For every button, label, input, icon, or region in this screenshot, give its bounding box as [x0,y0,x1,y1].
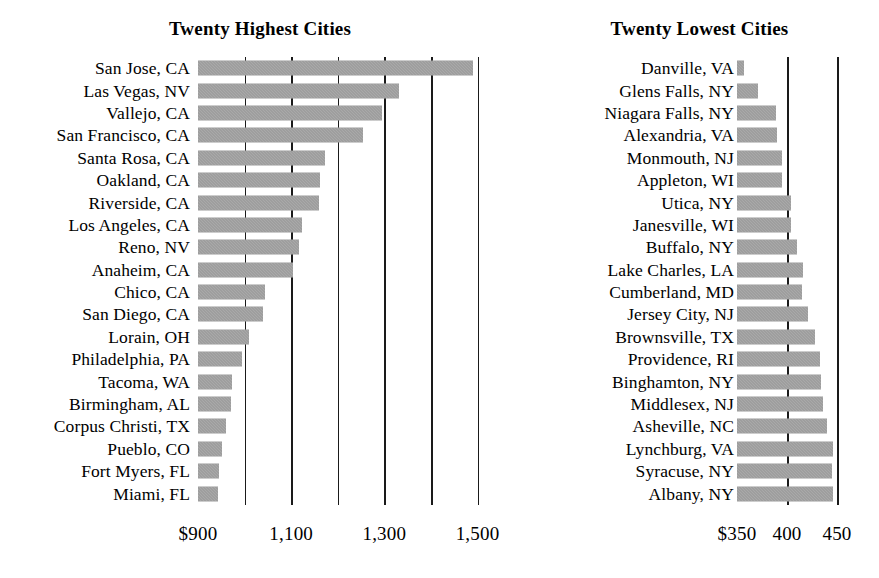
bar-row: Cumberland, MD [520,281,879,303]
bar-row: Brownsville, TX [520,326,879,348]
bar [198,83,399,98]
bar-category-label: Lynchburg, VA [520,440,734,458]
bar-category-label: Anaheim, CA [0,261,190,279]
bar-row: Santa Rosa, CA [0,147,520,169]
bar-row: San Diego, CA [0,303,520,325]
bar [737,419,827,434]
bar-category-label: Middlesex, NJ [520,395,734,413]
bar-category-label: Los Angeles, CA [0,216,190,234]
bar [737,105,776,120]
bar-category-label: Monmouth, NJ [520,149,734,167]
chart-panel-lowest: Twenty Lowest Cities Danville, VAGlens F… [520,0,879,578]
bar-row: Lake Charles, LA [520,259,879,281]
bar [737,441,833,456]
bar [198,173,320,188]
bar [198,262,293,277]
x-axis-tick-label: 1,100 [269,522,313,546]
chart-panel-highest: Twenty Highest Cities San Jose, CALas Ve… [0,0,520,578]
bar-category-label: Santa Rosa, CA [0,149,190,167]
bar-category-label: Janesville, WI [520,216,734,234]
bar-category-label: Jersey City, NJ [520,305,734,323]
bar [198,285,265,300]
bar-category-label: Lorain, OH [0,328,190,346]
bar-row: Las Vegas, NV [0,79,520,101]
bar-row: Alexandria, VA [520,124,879,146]
bar [198,307,263,322]
bar-category-label: Utica, NY [520,194,734,212]
bar-row: Chico, CA [0,281,520,303]
bar [737,195,791,210]
bar-category-label: Appleton, WI [520,171,734,189]
bar [198,195,319,210]
bar [737,262,803,277]
bar-category-label: San Francisco, CA [0,126,190,144]
x-axis-tick-label: $900 [179,522,218,546]
bar [737,486,833,501]
bar-row: Providence, RI [520,348,879,370]
bar-category-label: San Jose, CA [0,59,190,77]
bar-row: San Francisco, CA [0,124,520,146]
bar-rows-lowest: Danville, VAGlens Falls, NYNiagara Falls… [520,57,879,505]
bar [198,105,382,120]
bar-category-label: Glens Falls, NY [520,82,734,100]
bar-row: Monmouth, NJ [520,147,879,169]
bar-row: Appleton, WI [520,169,879,191]
bar-row: Anaheim, CA [0,259,520,281]
chart-title-lowest: Twenty Lowest Cities [520,18,879,40]
x-axis-tick-label: 400 [772,522,801,546]
bar-category-label: Pueblo, CO [0,440,190,458]
plot-area-lowest: Danville, VAGlens Falls, NYNiagara Falls… [520,57,879,519]
bar-category-label: Asheville, NC [520,417,734,435]
x-axis-tick-label: 1,500 [456,522,500,546]
bar-category-label: Birmingham, AL [0,395,190,413]
bar-category-label: Las Vegas, NV [0,82,190,100]
bar-category-label: Tacoma, WA [0,373,190,391]
chart-title-highest: Twenty Highest Cities [0,18,520,40]
bar-row: Vallejo, CA [0,102,520,124]
bar-row: Binghamton, NY [520,370,879,392]
bar [737,83,758,98]
bar [737,374,821,389]
x-axis-highest: $9001,1001,3001,500 [0,522,520,548]
x-axis-tick-label: $350 [718,522,757,546]
bar-row: Riverside, CA [0,191,520,213]
bar-row: Los Angeles, CA [0,214,520,236]
bar-category-label: Philadelphia, PA [0,350,190,368]
bar-category-label: Niagara Falls, NY [520,104,734,122]
bar-row: Danville, VA [520,57,879,79]
chart-page: Twenty Highest Cities San Jose, CALas Ve… [0,0,879,578]
bar [737,285,802,300]
bar-row: Syracuse, NY [520,460,879,482]
bar-category-label: Miami, FL [0,485,190,503]
bar-category-label: Cumberland, MD [520,283,734,301]
bar-category-label: Danville, VA [520,59,734,77]
bar-row: San Jose, CA [0,57,520,79]
plot-area-highest: San Jose, CALas Vegas, NVVallejo, CASan … [0,57,520,519]
bar [198,374,232,389]
bar-row: Corpus Christi, TX [0,415,520,437]
bar-row: Buffalo, NY [520,236,879,258]
bar [198,419,226,434]
bar-row: Miami, FL [0,482,520,504]
bar-category-label: Riverside, CA [0,194,190,212]
bar-category-label: Corpus Christi, TX [0,417,190,435]
bar [737,150,782,165]
x-axis-lowest: $350400450 [520,522,879,548]
bar-row: Asheville, NC [520,415,879,437]
bar-category-label: Binghamton, NY [520,373,734,391]
bar-category-label: Oakland, CA [0,171,190,189]
bar-category-label: Syracuse, NY [520,462,734,480]
bar [198,441,222,456]
bar [737,464,832,479]
bar [198,150,325,165]
bar-row: Lynchburg, VA [520,438,879,460]
bar-rows-highest: San Jose, CALas Vegas, NVVallejo, CASan … [0,57,520,505]
bar-category-label: Albany, NY [520,485,734,503]
bar [198,329,249,344]
bar-row: Jersey City, NJ [520,303,879,325]
bar-row: Glens Falls, NY [520,79,879,101]
bar-row: Lorain, OH [0,326,520,348]
bar-category-label: Brownsville, TX [520,328,734,346]
bar-row: Utica, NY [520,191,879,213]
bar-category-label: Alexandria, VA [520,126,734,144]
